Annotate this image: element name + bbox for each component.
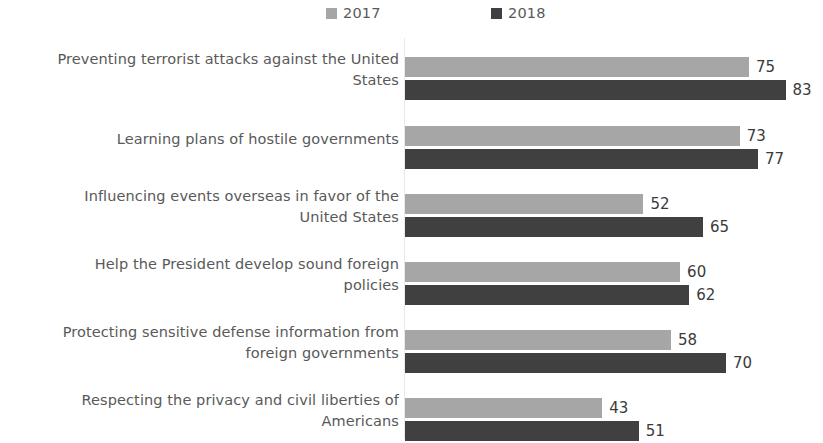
row-bars: 43 51 [405, 379, 823, 443]
bar-value-2018: 70 [733, 356, 752, 371]
category-label: Help the President develop sound foreign… [9, 254, 399, 296]
category-label: Protecting sensitive defense information… [9, 322, 399, 364]
chart-row: Protecting sensitive defense information… [0, 311, 823, 375]
bar-value-2017: 75 [756, 60, 775, 75]
bar-2018[interactable] [405, 149, 758, 169]
category-label-line2: States [352, 72, 399, 88]
category-label-line2: policies [344, 277, 399, 293]
category-label: Influencing events overseas in favor of … [9, 186, 399, 228]
bar-2017[interactable] [405, 398, 602, 418]
bar-value-2017: 73 [747, 129, 766, 144]
row-bars: 58 70 [405, 311, 823, 375]
category-label-line2: United States [300, 209, 400, 225]
bar-group-2018: 70 [405, 353, 752, 373]
legend-swatch-2018-icon [491, 8, 502, 19]
bar-group-2017: 43 [405, 398, 628, 418]
row-bars: 75 83 [405, 38, 823, 102]
legend-label-2017: 2017 [343, 6, 381, 21]
bar-group-2017: 75 [405, 57, 775, 77]
category-label-line2: Americans [322, 413, 399, 429]
bar-value-2018: 65 [710, 220, 729, 235]
category-label-line1: Preventing terrorist attacks against the… [57, 51, 399, 67]
bar-2017[interactable] [405, 126, 740, 146]
bar-group-2017: 60 [405, 262, 706, 282]
bar-value-2017: 60 [687, 265, 706, 280]
bar-value-2017: 58 [678, 333, 697, 348]
category-label-line2: foreign governments [246, 345, 399, 361]
bar-group-2018: 51 [405, 421, 665, 441]
row-bars: 52 65 [405, 175, 823, 239]
bar-2018[interactable] [405, 353, 726, 373]
bar-group-2017: 58 [405, 330, 697, 350]
bar-value-2018: 51 [646, 424, 665, 439]
legend-entry-2018[interactable]: 2018 [491, 6, 546, 21]
bar-value-2018: 62 [696, 288, 715, 303]
bar-group-2018: 62 [405, 285, 715, 305]
legend-swatch-2017-icon [326, 8, 337, 19]
bar-2017[interactable] [405, 262, 680, 282]
chart-row: Influencing events overseas in favor of … [0, 175, 823, 239]
bar-group-2017: 52 [405, 194, 670, 214]
bar-2018[interactable] [405, 285, 689, 305]
chart-legend: 2017 2018 [0, 6, 823, 30]
plot-area: Preventing terrorist attacks against the… [0, 38, 823, 439]
category-label: Respecting the privacy and civil liberti… [9, 390, 399, 432]
category-label-line1: Learning plans of hostile governments [117, 131, 399, 147]
bar-2017[interactable] [405, 194, 643, 214]
bar-value-2017: 52 [650, 197, 669, 212]
row-bars: 60 62 [405, 243, 823, 307]
bar-value-2017: 43 [609, 401, 628, 416]
bar-2017[interactable] [405, 57, 749, 77]
category-label: Learning plans of hostile governments [9, 129, 399, 150]
chart-row: Learning plans of hostile governments 73… [0, 107, 823, 171]
bar-value-2018: 83 [793, 83, 812, 98]
bar-value-2018: 77 [765, 152, 784, 167]
category-label-line1: Influencing events overseas in favor of … [84, 188, 399, 204]
category-label: Preventing terrorist attacks against the… [9, 49, 399, 91]
bar-2017[interactable] [405, 330, 671, 350]
bar-group-2018: 77 [405, 149, 784, 169]
legend-entry-2017[interactable]: 2017 [326, 6, 381, 21]
category-label-line1: Help the President develop sound foreign [95, 256, 399, 272]
bar-2018[interactable] [405, 217, 703, 237]
chart-row: Help the President develop sound foreign… [0, 243, 823, 307]
bar-group-2018: 83 [405, 80, 812, 100]
bar-2018[interactable] [405, 421, 639, 441]
chart-row: Preventing terrorist attacks against the… [0, 38, 823, 102]
category-label-line1: Protecting sensitive defense information… [63, 324, 399, 340]
category-label-line1: Respecting the privacy and civil liberti… [82, 392, 400, 408]
chart-row: Respecting the privacy and civil liberti… [0, 379, 823, 443]
bar-2018[interactable] [405, 80, 786, 100]
bar-group-2017: 73 [405, 126, 766, 146]
row-bars: 73 77 [405, 107, 823, 171]
legend-label-2018: 2018 [508, 6, 546, 21]
bar-group-2018: 65 [405, 217, 729, 237]
